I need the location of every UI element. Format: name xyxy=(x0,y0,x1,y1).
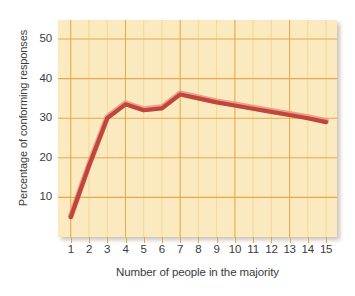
y-axis-tick-label: 50 xyxy=(26,33,52,44)
y-axis-tick-label: 10 xyxy=(26,191,52,202)
x-axis-tick-labels: 123456789101112131415 xyxy=(0,243,355,259)
plot-area xyxy=(58,20,337,237)
grid-minor-vertical xyxy=(71,20,326,237)
x-axis-title: Number of people in the majority xyxy=(58,266,337,278)
y-axis-tick-label: 30 xyxy=(26,112,52,123)
chart-figure: 1020304050 123456789101112131415 Percent… xyxy=(0,0,355,296)
x-axis-tick-label: 15 xyxy=(315,243,337,255)
plot-canvas xyxy=(58,20,337,237)
y-axis-tick-label: 40 xyxy=(26,73,52,84)
y-axis-tick-label: 20 xyxy=(26,152,52,163)
y-axis-title: Percentage of conforming responses xyxy=(17,23,29,213)
grid-major-horizontal xyxy=(58,39,337,197)
